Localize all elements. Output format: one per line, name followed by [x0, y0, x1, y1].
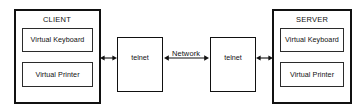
diagram-canvas: CLIENT Virtual Keyboard Virtual Printer … [0, 0, 364, 111]
telnet-node-server-side-label: telnet [224, 54, 242, 61]
client-panel-title: CLIENT [43, 16, 71, 24]
client-virtual-keyboard-label: Virtual Keyboard [31, 36, 85, 43]
network-link-arrow [164, 52, 209, 64]
telnet-node-client-side [117, 37, 163, 92]
link-client-to-telnet-arrow [100, 52, 117, 64]
telnet-node-server-side [210, 37, 256, 92]
telnet-node-client-side-label: telnet [131, 54, 149, 61]
link-telnet-to-server-arrow [256, 52, 273, 64]
server-virtual-printer-label: Virtual Printer [290, 71, 334, 78]
server-virtual-keyboard-label: Virtual Keyboard [285, 36, 339, 43]
server-panel-title: SERVER [296, 16, 328, 24]
client-virtual-printer-label: Virtual Printer [35, 71, 79, 78]
